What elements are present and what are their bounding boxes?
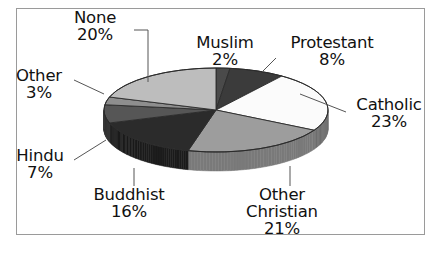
slice-label-muslim: Muslim 2%: [182, 35, 268, 69]
slice-label-protestant: Protestant 8%: [276, 35, 388, 69]
chart-container: None 20% Other 3% Hindu 7% Buddhist 16% …: [0, 0, 431, 257]
slice-label-hindu-percent: 7%: [4, 165, 76, 182]
slice-label-catholic: Catholic 23%: [347, 97, 431, 131]
slice-label-other-percent: 3%: [4, 85, 74, 102]
slice-label-buddhist-percent: 16%: [79, 204, 179, 221]
slice-label-other-christian: Other Christian 21%: [228, 187, 336, 237]
slice-label-catholic-percent: 23%: [347, 114, 431, 131]
slice-label-protestant-percent: 8%: [276, 52, 388, 69]
slice-label-other: Other 3%: [4, 68, 74, 102]
slice-label-none-percent: 20%: [56, 27, 134, 44]
slice-label-other-christian-percent: 21%: [228, 221, 336, 238]
slice-label-buddhist: Buddhist 16%: [79, 187, 179, 221]
slice-label-none: None 20%: [56, 10, 134, 44]
slice-label-hindu: Hindu 7%: [4, 148, 76, 182]
slice-label-muslim-percent: 2%: [182, 52, 268, 69]
